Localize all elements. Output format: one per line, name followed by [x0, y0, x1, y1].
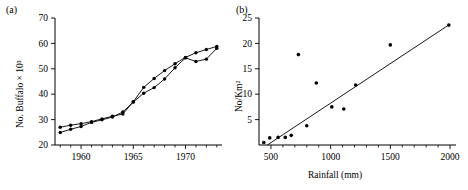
panel-a-y-tick-label: 60 — [39, 39, 49, 49]
panel-b-axes — [259, 18, 456, 145]
panel-a-data-point — [69, 128, 72, 131]
panel-a-x-tick-label: 1970 — [176, 152, 195, 162]
panel-b-data-point — [354, 83, 358, 87]
panel-a-data-point — [205, 48, 208, 51]
panel-b-y-tick-label: 5 — [247, 115, 252, 125]
panel-b-y-tick-label: 25 — [243, 13, 253, 23]
panel-a-data-point — [173, 62, 176, 65]
panel-a-y-tick-label: 30 — [39, 115, 49, 125]
panel-a-data-point — [111, 115, 114, 118]
panel-a-data-point — [90, 121, 93, 124]
panel-b-data-point — [297, 53, 301, 57]
panel-b-plot: 510152025500100015002000 — [234, 0, 468, 190]
panel-a-y-tick-label: 40 — [39, 89, 49, 99]
panel-a-x-tick-label: 1965 — [124, 152, 143, 162]
panel-b-data-point — [389, 43, 393, 47]
panel-b-x-tick-label: 2000 — [441, 152, 460, 162]
panel-a-data-point — [59, 126, 62, 129]
panel-a-data-point — [163, 69, 166, 72]
panel-a-line-series-lower-early — [60, 48, 217, 132]
panel-a-data-point — [152, 86, 155, 89]
panel-a-data-point — [69, 123, 72, 126]
panel-b-x-tick-label: 1500 — [381, 152, 400, 162]
panel-b-data-point — [268, 136, 272, 140]
panel-b-data-point — [262, 141, 266, 145]
panel-b-data-point — [276, 136, 280, 140]
panel-b-y-tick-label: 15 — [243, 64, 253, 74]
panel-b-data-point — [342, 107, 346, 111]
panel-b-data-point — [289, 134, 293, 138]
panel-b-x-tick-label: 1000 — [321, 152, 340, 162]
panel-a: (a) No. Buffalo × 10³ 203040506070196019… — [0, 0, 234, 190]
panel-a-data-point — [59, 131, 62, 134]
panel-a-data-point — [205, 57, 208, 60]
panel-a-data-point — [173, 66, 176, 69]
panel-a-data-point — [163, 77, 166, 80]
panel-b-data-point — [447, 23, 451, 27]
panel-a-data-point — [132, 100, 135, 103]
panel-b-data-point — [330, 105, 334, 109]
panel-a-y-tick-label: 20 — [39, 140, 49, 150]
panel-b-data-point — [283, 136, 287, 140]
panel-b-y-tick-label: 20 — [243, 39, 253, 49]
panel-a-plot: 203040506070196019651970 — [0, 0, 234, 190]
panel-a-data-point — [142, 86, 145, 89]
panel-a-x-tick-label: 1960 — [72, 152, 91, 162]
panel-a-data-point — [142, 91, 145, 94]
panel-b-data-point — [315, 81, 319, 85]
panel-b-x-tick-label: 500 — [264, 152, 279, 162]
panel-a-data-point — [184, 56, 187, 59]
panel-a-data-point — [79, 125, 82, 128]
panel-a-data-point — [152, 77, 155, 80]
panel-a-line-series-upper-early — [60, 46, 217, 127]
panel-a-data-point — [194, 60, 197, 63]
panel-a-data-point — [100, 118, 103, 121]
panel-b-regression-line — [267, 24, 450, 145]
figure-container: (a) No. Buffalo × 10³ 203040506070196019… — [0, 0, 468, 190]
panel-b: (b) No/Km² Rainfall (mm) 510152025500100… — [234, 0, 468, 190]
panel-a-y-tick-label: 50 — [39, 64, 49, 74]
panel-a-y-tick-label: 70 — [39, 13, 49, 23]
panel-a-data-point — [121, 110, 124, 113]
panel-b-data-point — [305, 124, 309, 128]
panel-a-data-point — [194, 51, 197, 54]
panel-b-y-tick-label: 10 — [243, 89, 253, 99]
panel-a-data-point — [215, 47, 218, 50]
